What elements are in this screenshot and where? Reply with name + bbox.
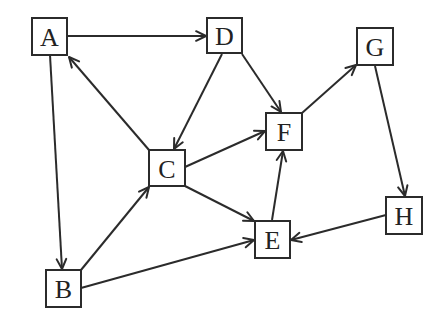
- node-label: C: [158, 155, 175, 184]
- edge-c-to-e: [185, 186, 254, 221]
- edges-layer: [50, 31, 407, 288]
- node-label: B: [55, 275, 72, 304]
- edge-line: [185, 131, 265, 167]
- node-d: D: [207, 18, 242, 53]
- edge-a-to-d: [67, 31, 206, 41]
- node-b: B: [46, 270, 81, 307]
- edge-d-to-c: [174, 54, 222, 149]
- node-a: A: [32, 18, 67, 55]
- edge-a-to-b: [50, 55, 66, 269]
- node-label: A: [40, 23, 59, 52]
- edge-line: [242, 54, 281, 112]
- edge-f-to-g: [302, 65, 356, 113]
- edge-line: [174, 54, 222, 149]
- edge-line: [81, 187, 149, 270]
- edge-d-to-f: [242, 54, 281, 112]
- edge-e-to-f: [272, 151, 286, 220]
- edge-b-to-c: [81, 187, 149, 270]
- node-e: E: [255, 221, 290, 258]
- edge-line: [272, 151, 283, 220]
- edge-c-to-a: [69, 57, 149, 150]
- edge-line: [69, 57, 149, 150]
- node-label: H: [395, 202, 414, 231]
- edge-g-to-h: [375, 66, 407, 196]
- node-c: C: [149, 150, 185, 186]
- edge-h-to-e: [291, 215, 386, 242]
- edge-line: [81, 240, 254, 288]
- node-h: H: [386, 197, 422, 234]
- node-label: F: [277, 118, 291, 147]
- edge-line: [50, 55, 62, 269]
- nodes-layer: ABCDEFGH: [32, 18, 422, 307]
- edge-line: [302, 65, 356, 113]
- edge-c-to-f: [185, 131, 265, 167]
- node-label: E: [265, 226, 281, 255]
- edge-line: [185, 186, 254, 221]
- node-label: G: [366, 33, 385, 62]
- edge-line: [375, 66, 405, 196]
- edge-line: [291, 215, 386, 240]
- node-g: G: [357, 28, 393, 65]
- edge-b-to-e: [81, 238, 254, 288]
- node-label: D: [215, 22, 234, 51]
- directed-graph-diagram: ABCDEFGH: [0, 0, 443, 326]
- node-f: F: [266, 113, 302, 150]
